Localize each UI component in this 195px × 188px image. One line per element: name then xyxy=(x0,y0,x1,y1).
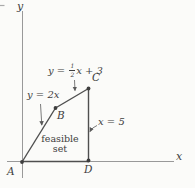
feasible-set-region-label: feasible set xyxy=(40,134,80,154)
equation-x-equals-5-label: x = 5 xyxy=(98,117,125,127)
edge-bc-y-equals-half-x-plus-3 xyxy=(56,89,89,109)
vertex-label-d: D xyxy=(84,164,92,175)
vertex-label-a: A xyxy=(7,166,15,177)
vertex-dot-a xyxy=(20,160,24,164)
y-axis-label: y xyxy=(17,1,23,12)
region-label-line2: set xyxy=(40,144,80,154)
fraction-denominator: 2 xyxy=(69,71,75,78)
x-axis-label: x xyxy=(176,151,182,162)
arrow-to-line-ab-icon xyxy=(41,104,42,125)
arrow-to-line-bc-icon xyxy=(75,80,76,91)
fraction-numerator: 1 xyxy=(69,63,75,71)
vertex-label-b: B xyxy=(57,110,65,121)
feasible-set-figure: y x y = 2x y = 12x + 3 x = 5 A B C D fea… xyxy=(0,0,195,188)
vertex-dot-d xyxy=(87,159,91,163)
vertex-dot-c xyxy=(87,87,91,91)
equation-y-equals-2x-label: y = 2x xyxy=(27,90,59,100)
leader-to-line-cd-icon xyxy=(90,126,97,132)
equation-prefix: y = xyxy=(48,65,68,76)
vertex-label-c: C xyxy=(92,72,100,83)
fraction-one-half: 12 xyxy=(69,63,75,78)
